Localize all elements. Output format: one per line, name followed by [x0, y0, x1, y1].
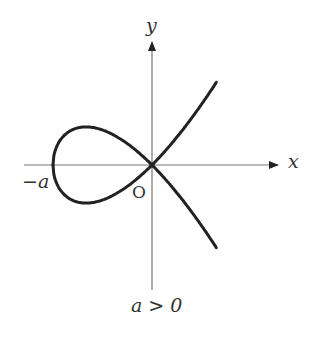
origin-label: O — [132, 184, 146, 201]
neg-a-label: −a — [22, 172, 49, 191]
strophoid-diagram: y x −a O a > 0 — [0, 0, 317, 339]
condition-label: a > 0 — [131, 296, 182, 315]
y-axis-label: y — [146, 16, 157, 35]
origin-node — [150, 163, 155, 168]
x-axis-label: x — [288, 152, 299, 171]
